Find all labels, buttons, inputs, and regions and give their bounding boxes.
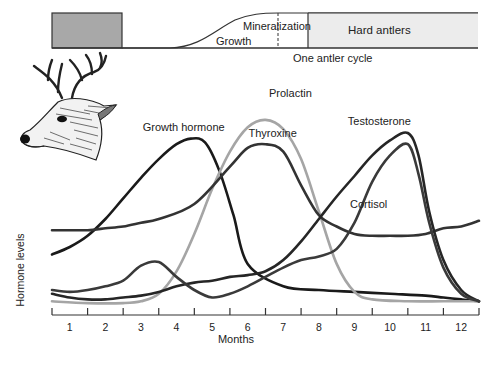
series-label-testosterone: Testosterone (348, 115, 411, 127)
series-label-cortisol: Cortisol (350, 198, 387, 210)
x-tick-label: 12 (455, 321, 467, 333)
antler-cycle-bar: Growth Mineralization Hard antlers One a… (52, 13, 478, 64)
x-ticks (52, 308, 479, 315)
x-tick-label: 6 (245, 321, 251, 333)
hormone-antler-figure: Growth Mineralization Hard antlers One a… (0, 0, 500, 365)
deer-head-shape (21, 99, 116, 160)
hard-antlers-label: Hard antlers (348, 24, 411, 36)
x-axis: 123456789101112 Months (52, 308, 479, 345)
series-label-growth-hormone: Growth hormone (143, 121, 225, 133)
deer-nose-icon (20, 135, 30, 144)
series-label-prolactin: Prolactin (269, 87, 312, 99)
antlers-icon (34, 53, 106, 98)
velvet-shed-block (52, 13, 122, 48)
x-tick-label: 10 (384, 321, 396, 333)
x-tick-label: 1 (67, 321, 73, 333)
deer-eye-icon (57, 116, 67, 122)
mineralization-label: Mineralization (243, 20, 311, 32)
x-tick-label: 8 (316, 321, 322, 333)
series-line-cortisol (52, 144, 479, 302)
x-axis-label: Months (218, 333, 255, 345)
series-label-thyroxine: Thyroxine (248, 127, 296, 139)
x-tick-label: 3 (138, 321, 144, 333)
series-labels: Growth hormoneProlactinThyroxineTestoste… (143, 87, 411, 209)
x-tick-label: 11 (420, 321, 431, 333)
deer-head-illustration (20, 53, 116, 160)
x-tick-label: 4 (174, 321, 180, 333)
y-axis-label: Hormone levels (14, 234, 26, 307)
x-tick-labels: 123456789101112 (67, 321, 467, 333)
series-layer (52, 120, 479, 303)
antler-cycle-label: One antler cycle (293, 52, 372, 64)
chart-canvas: Growth Mineralization Hard antlers One a… (0, 0, 500, 365)
x-tick-label: 5 (209, 321, 215, 333)
x-tick-label: 7 (280, 321, 286, 333)
growth-label: Growth (216, 35, 251, 47)
x-tick-label: 2 (102, 321, 108, 333)
x-tick-label: 9 (352, 321, 358, 333)
